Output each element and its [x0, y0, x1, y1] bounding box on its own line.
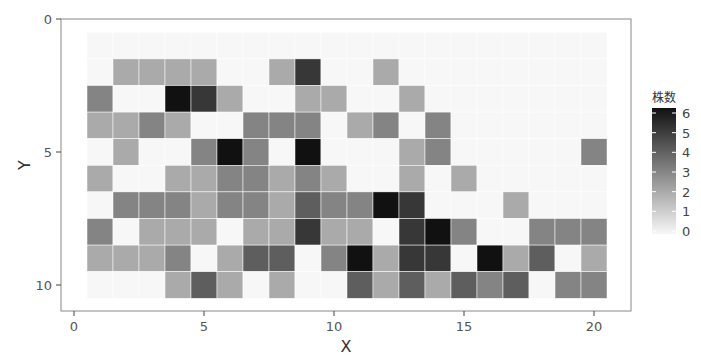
legend-tick-label: 5 — [682, 126, 690, 141]
heatmap-cell — [191, 32, 217, 59]
heatmap-cell — [373, 245, 399, 272]
heatmap-cell — [503, 139, 529, 166]
heatmap-cell — [243, 86, 269, 113]
heatmap-cell — [295, 245, 321, 272]
heatmap-cell — [555, 59, 581, 86]
heatmap-cell — [295, 139, 321, 166]
heatmap-cell — [399, 165, 425, 192]
heatmap-cell — [477, 165, 503, 192]
heatmap-cell — [269, 59, 295, 86]
heatmap-cell — [139, 32, 165, 59]
heatmap-cell — [451, 112, 477, 139]
heatmap-cell — [321, 32, 347, 59]
heatmap-cell — [321, 245, 347, 272]
heatmap-cell — [373, 219, 399, 246]
heatmap-cell — [477, 139, 503, 166]
heatmap-cell — [581, 245, 607, 272]
heatmap-cell — [321, 59, 347, 86]
heatmap-cell — [217, 59, 243, 86]
heatmap-cell — [503, 272, 529, 299]
heatmap-cell — [243, 112, 269, 139]
heatmap-cell — [451, 86, 477, 113]
heatmap-cell — [373, 59, 399, 86]
heatmap-cell — [243, 192, 269, 219]
heatmap-cell — [87, 192, 113, 219]
heatmap-cell — [347, 245, 373, 272]
heatmap-cell — [113, 192, 139, 219]
y-tick-label: 10 — [35, 278, 52, 293]
heatmap-cell — [191, 165, 217, 192]
heatmap-cell — [399, 192, 425, 219]
heatmap-cell — [113, 112, 139, 139]
legend-title: 株数 — [652, 90, 676, 105]
heatmap-cell — [165, 32, 191, 59]
heatmap-cell — [87, 59, 113, 86]
heatmap-cell — [581, 139, 607, 166]
heatmap-cell — [87, 272, 113, 299]
heatmap-cell — [321, 272, 347, 299]
heatmap-cell — [503, 192, 529, 219]
heatmap-cell — [529, 192, 555, 219]
heatmap-cell — [425, 86, 451, 113]
heatmap-cell — [217, 32, 243, 59]
heatmap-cell — [269, 112, 295, 139]
y-tick-label: 0 — [44, 12, 52, 27]
heatmap-cell — [269, 245, 295, 272]
heatmap-cell — [269, 165, 295, 192]
heatmap-cell — [503, 32, 529, 59]
heatmap-cell — [425, 139, 451, 166]
heatmap-cell — [191, 245, 217, 272]
heatmap-cell — [555, 32, 581, 59]
heatmap-cell — [217, 86, 243, 113]
heatmap-cell — [191, 192, 217, 219]
heatmap-cell — [113, 139, 139, 166]
heatmap-cell — [87, 32, 113, 59]
heatmap-cell — [425, 272, 451, 299]
heatmap-cell — [113, 59, 139, 86]
legend-tick-label: 2 — [682, 185, 690, 200]
heatmap-cell — [243, 245, 269, 272]
heatmap-cell — [399, 112, 425, 139]
heatmap-cell — [243, 272, 269, 299]
heatmap-cell — [555, 112, 581, 139]
heatmap-cell — [295, 86, 321, 113]
heatmap-cell — [87, 86, 113, 113]
heatmap-cells — [87, 32, 607, 298]
heatmap-cell — [425, 112, 451, 139]
x-tick-label: 0 — [70, 319, 78, 334]
heatmap-cell — [191, 86, 217, 113]
legend: 株数 0123456 — [652, 90, 690, 239]
heatmap-cell — [373, 165, 399, 192]
legend-colorbar — [652, 108, 676, 234]
legend-tick-label: 0 — [682, 224, 690, 239]
heatmap-cell — [399, 32, 425, 59]
heatmap-cell — [191, 112, 217, 139]
heatmap-cell — [139, 245, 165, 272]
heatmap-cell — [217, 165, 243, 192]
heatmap-cell — [113, 32, 139, 59]
heatmap-cell — [139, 219, 165, 246]
heatmap-cell — [347, 86, 373, 113]
heatmap-cell — [191, 219, 217, 246]
heatmap-cell — [347, 139, 373, 166]
y-axis: 0510 — [35, 12, 61, 293]
y-axis-title: Y — [15, 160, 34, 171]
heatmap-cell — [269, 192, 295, 219]
heatmap-cell — [425, 165, 451, 192]
heatmap-cell — [243, 59, 269, 86]
heatmap-cell — [321, 192, 347, 219]
heatmap-cell — [139, 165, 165, 192]
heatmap-cell — [503, 219, 529, 246]
x-axis-title: X — [341, 337, 352, 356]
heatmap-cell — [451, 139, 477, 166]
heatmap-cell — [555, 219, 581, 246]
heatmap-cell — [321, 86, 347, 113]
heatmap-cell — [581, 165, 607, 192]
heatmap-cell — [529, 86, 555, 113]
x-tick-label: 10 — [326, 319, 343, 334]
heatmap-cell — [165, 272, 191, 299]
heatmap-cell — [477, 192, 503, 219]
heatmap-cell — [243, 219, 269, 246]
heatmap-cell — [217, 272, 243, 299]
heatmap-cell — [321, 112, 347, 139]
